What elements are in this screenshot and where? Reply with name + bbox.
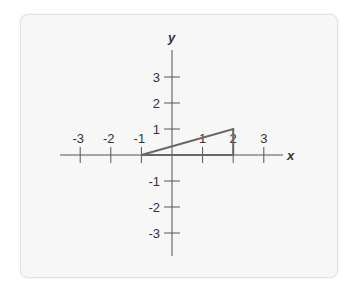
x-axis-label: x (286, 148, 295, 163)
y-tick-label: -3 (148, 226, 160, 241)
x-tick-label: -3 (72, 131, 84, 146)
y-tick-label: -1 (148, 174, 160, 189)
x-tick-label: 3 (260, 131, 267, 146)
y-tick-label: 2 (153, 96, 160, 111)
y-tick-label: 1 (153, 122, 160, 137)
x-tick-label: -2 (103, 131, 115, 146)
coordinate-plane: x y -3-2-1123 321-1-2-3 (0, 0, 354, 288)
x-tick-label: -1 (134, 131, 146, 146)
y-tick-label: -2 (148, 200, 160, 215)
y-tick-label: 3 (153, 70, 160, 85)
y-axis-label: y (167, 30, 176, 45)
